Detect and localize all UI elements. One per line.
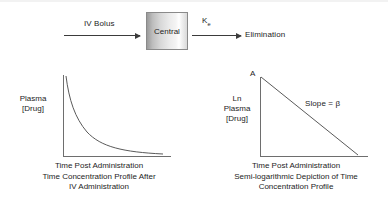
right-plot-caption-line1: Semi-logarithmic Depiction of Time	[221, 172, 371, 183]
pharmacokinetics-diagram: IV Bolus Central Ke Elimination Plasma […	[0, 0, 388, 204]
right-plot-line	[260, 76, 370, 158]
elimination-arrow	[192, 35, 241, 36]
right-plot-y-axis-line3: [Drug]	[216, 114, 258, 124]
left-plot-y-axis-line1: Plasma	[12, 94, 54, 104]
left-plot-caption-line1: Time Concentration Profile After	[24, 172, 174, 183]
iv-bolus-arrow	[64, 35, 140, 36]
right-plot-caption-line2: Concentration Profile	[221, 182, 371, 193]
central-compartment-box: Central	[146, 12, 188, 50]
central-compartment-label: Central	[147, 13, 187, 49]
left-plot-curve	[63, 74, 173, 158]
elimination-label: Elimination	[245, 30, 285, 40]
ke-subscript: e	[207, 21, 210, 27]
left-plot-caption-line2: IV Administration	[24, 182, 174, 193]
left-plot-x-axis-label: Time Post Administration	[24, 161, 174, 172]
left-plot-y-axis-label: Plasma [Drug]	[12, 94, 54, 114]
elimination-rate-constant-label: Ke	[202, 16, 211, 29]
slope-beta-label: Slope = β	[305, 99, 340, 109]
right-plot-x-axis-label: Time Post Administration	[221, 161, 371, 172]
right-plot-captions: Time Post Administration Semi-logarithmi…	[221, 161, 371, 193]
left-plot-y-axis-line2: [Drug]	[12, 104, 54, 114]
right-plot-y-axis-label: Ln Plasma [Drug]	[216, 94, 258, 124]
right-plot-y-axis-line2: Plasma	[216, 104, 258, 114]
left-plot-captions: Time Post Administration Time Concentrat…	[24, 161, 174, 193]
iv-bolus-label: IV Bolus	[84, 19, 115, 29]
top-edge-artifact	[0, 0, 388, 2]
intercept-a-label: A	[250, 69, 255, 79]
right-plot-y-axis-line1: Ln	[216, 94, 258, 104]
